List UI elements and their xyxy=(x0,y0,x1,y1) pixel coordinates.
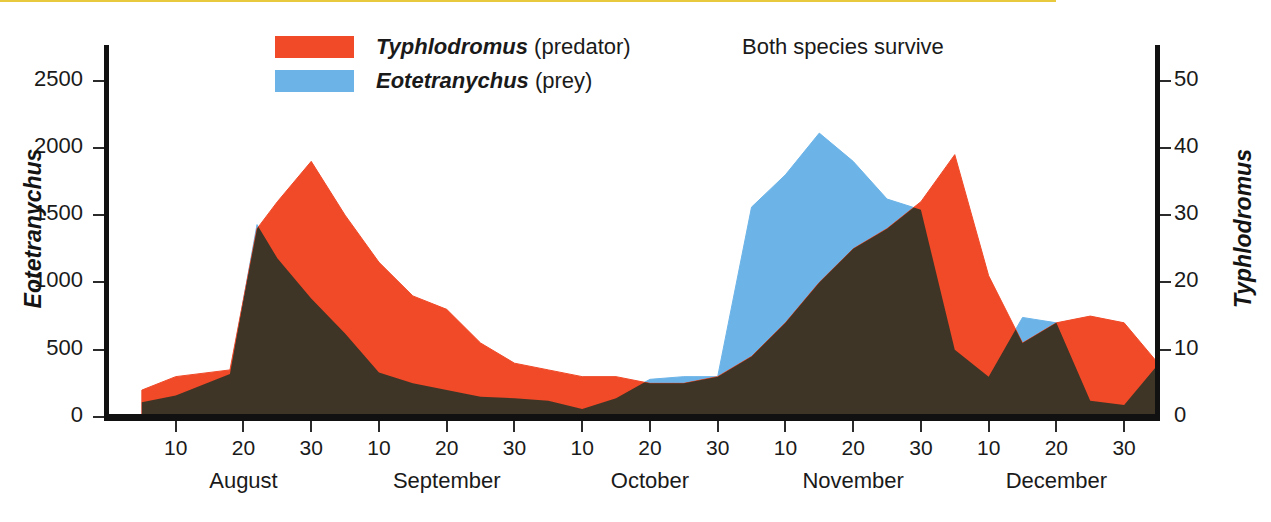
y-axis-left-tick xyxy=(93,416,104,418)
x-axis-day-label: 10 xyxy=(560,436,604,460)
y-axis-left-tick xyxy=(93,281,104,283)
x-axis-line xyxy=(104,414,1160,421)
x-axis-tick xyxy=(649,421,651,432)
x-axis-tick xyxy=(242,421,244,432)
x-axis-day-label: 20 xyxy=(628,436,672,460)
x-axis-tick xyxy=(717,421,719,432)
x-axis-day-label: 20 xyxy=(1034,436,1078,460)
legend-label-predator: Typhlodromus (predator) xyxy=(376,34,631,60)
x-axis-tick xyxy=(1055,421,1057,432)
x-axis-tick xyxy=(1123,421,1125,432)
y-axis-left-tick xyxy=(93,80,104,82)
x-axis-tick xyxy=(446,421,448,432)
y-axis-left-line xyxy=(104,45,109,419)
y-axis-right-title: Typhlodromus xyxy=(1230,114,1257,344)
x-axis-day-label: 30 xyxy=(492,436,536,460)
x-axis-day-label: 20 xyxy=(831,436,875,460)
y-axis-left-tick xyxy=(93,349,104,351)
x-axis-tick xyxy=(988,421,990,432)
y-axis-left-tick-label: 2500 xyxy=(13,66,83,92)
x-axis-tick xyxy=(784,421,786,432)
legend-species-prey: Eotetranychus xyxy=(376,68,529,93)
legend-qualifier-predator: (predator) xyxy=(534,34,631,59)
legend-item-typhlodromus: Typhlodromus (predator) xyxy=(275,30,631,64)
x-axis-month-label: December xyxy=(946,468,1166,494)
x-axis-day-label: 10 xyxy=(154,436,198,460)
x-axis-month-label: November xyxy=(743,468,963,494)
x-axis-day-label: 10 xyxy=(763,436,807,460)
legend-species-predator: Typhlodromus xyxy=(376,34,528,59)
x-axis-tick xyxy=(175,421,177,432)
x-axis-day-label: 10 xyxy=(357,436,401,460)
chart-annotation: Both species survive xyxy=(742,34,944,60)
y-axis-right-tick-label: 30 xyxy=(1174,200,1224,226)
y-axis-right-tick-label: 40 xyxy=(1174,133,1224,159)
x-axis-month-label: October xyxy=(540,468,760,494)
legend-swatch-predator xyxy=(275,36,354,58)
y-axis-right-line xyxy=(1155,45,1160,419)
y-axis-right-tick-label: 20 xyxy=(1174,267,1224,293)
chart-legend: Typhlodromus (predator) Eotetranychus (p… xyxy=(275,30,631,98)
y-axis-right-tick xyxy=(1160,349,1171,351)
y-axis-left-tick xyxy=(93,147,104,149)
y-axis-left-tick-label: 0 xyxy=(13,402,83,428)
y-axis-right-tick xyxy=(1160,147,1171,149)
x-axis-day-label: 20 xyxy=(221,436,265,460)
x-axis-month-label: August xyxy=(133,468,353,494)
x-axis-day-label: 10 xyxy=(967,436,1011,460)
y-axis-right-tick-label: 50 xyxy=(1174,66,1224,92)
x-axis-day-label: 20 xyxy=(425,436,469,460)
legend-label-prey: Eotetranychus (prey) xyxy=(376,68,592,94)
legend-item-eotetranychus: Eotetranychus (prey) xyxy=(275,64,631,98)
y-axis-right-tick xyxy=(1160,80,1171,82)
y-axis-left-tick xyxy=(93,214,104,216)
chart-figure: 0500100015002000250001020304050102030102… xyxy=(0,0,1271,522)
x-axis-day-label: 30 xyxy=(696,436,740,460)
legend-swatch-prey xyxy=(275,70,354,92)
y-axis-right-tick-label: 10 xyxy=(1174,335,1224,361)
x-axis-tick xyxy=(581,421,583,432)
plot-area xyxy=(108,47,1158,417)
x-axis-day-label: 30 xyxy=(899,436,943,460)
x-axis-accent-line xyxy=(0,0,1056,2)
x-axis-tick xyxy=(513,421,515,432)
area-chart-svg xyxy=(108,47,1158,417)
y-axis-right-tick-label: 0 xyxy=(1174,402,1224,428)
x-axis-tick xyxy=(920,421,922,432)
x-axis-tick xyxy=(852,421,854,432)
x-axis-tick xyxy=(378,421,380,432)
legend-qualifier-prey: (prey) xyxy=(535,68,592,93)
y-axis-right-tick xyxy=(1160,281,1171,283)
x-axis-day-label: 30 xyxy=(1102,436,1146,460)
x-axis-tick xyxy=(310,421,312,432)
y-axis-left-title: Eotetranychus xyxy=(20,114,47,344)
x-axis-day-label: 30 xyxy=(289,436,333,460)
x-axis-month-label: September xyxy=(337,468,557,494)
y-axis-right-tick xyxy=(1160,214,1171,216)
